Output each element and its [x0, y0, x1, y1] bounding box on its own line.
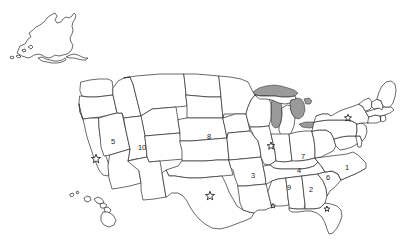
hawaii-inset	[70, 191, 116, 227]
us-map-svg: 1 2 3 4 5 6 7 8 9 10	[0, 0, 403, 241]
state-number-5: 5	[111, 137, 115, 146]
state-number-2: 2	[309, 185, 313, 194]
state-number-1: 1	[345, 163, 349, 172]
state-number-8: 8	[207, 132, 211, 141]
state-number-10: 10	[138, 143, 146, 152]
state-number-3: 3	[251, 171, 255, 180]
state-number-4: 4	[297, 166, 301, 175]
state-number-6: 6	[326, 173, 330, 182]
state-number-7: 7	[301, 152, 305, 161]
us-map-container: 1 2 3 4 5 6 7 8 9 10	[0, 0, 403, 241]
alaska-inset	[10, 13, 88, 63]
state-number-9: 9	[287, 183, 291, 192]
contiguous-states	[79, 74, 396, 234]
